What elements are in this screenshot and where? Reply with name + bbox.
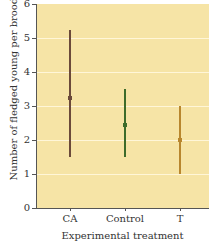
gridline	[36, 106, 209, 107]
y-tick-label: 2	[20, 135, 30, 145]
y-tick	[32, 174, 36, 175]
gridline	[36, 38, 209, 39]
plot-area	[36, 4, 209, 208]
mean-point	[68, 96, 72, 100]
y-tick	[32, 106, 36, 107]
y-tick-label: 3	[20, 101, 30, 111]
x-axis	[36, 208, 209, 209]
y-tick	[32, 72, 36, 73]
x-axis-title: Experimental treatment	[36, 230, 209, 241]
y-tick-label: 5	[20, 33, 30, 43]
gridline	[36, 140, 209, 141]
gridline	[36, 174, 209, 175]
y-tick	[32, 208, 36, 209]
mean-point	[123, 123, 127, 127]
x-tick	[125, 208, 126, 211]
gridline	[36, 72, 209, 73]
x-tick	[180, 208, 181, 211]
x-category-label: T	[150, 213, 210, 224]
x-tick	[70, 208, 71, 211]
y-tick-label: 0	[20, 203, 30, 213]
y-axis	[36, 4, 37, 209]
y-tick	[32, 38, 36, 39]
y-tick-label: 6	[20, 0, 30, 9]
error-bar	[69, 30, 71, 158]
y-axis-title: Number of fledged young per brood	[8, 31, 19, 181]
x-category-label: Control	[95, 213, 155, 224]
y-tick-label: 4	[20, 67, 30, 77]
x-category-label: CA	[40, 213, 100, 224]
mean-point	[178, 138, 182, 142]
y-tick	[32, 140, 36, 141]
y-tick	[32, 4, 36, 5]
y-tick-label: 1	[20, 169, 30, 179]
